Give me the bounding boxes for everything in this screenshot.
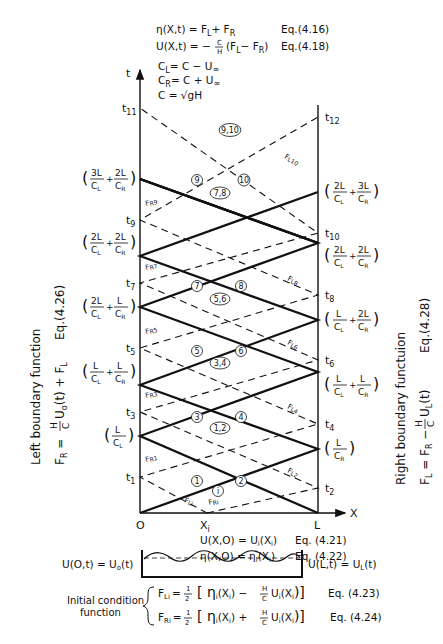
svg-text:2: 2 <box>185 595 189 603</box>
svg-text:+: + <box>106 367 114 377</box>
left-boundary-function: Left boundary function FR = H C Uo(t) + … <box>29 285 71 465</box>
svg-text:(: ( <box>82 361 88 380</box>
svg-text:L: L <box>117 361 122 371</box>
origin-label: O <box>136 519 145 532</box>
svg-text:2: 2 <box>185 619 189 627</box>
region-8: 8 <box>236 281 247 292</box>
svg-text:5: 5 <box>194 347 199 356</box>
svg-text:4: 4 <box>238 413 243 422</box>
svg-text:2L: 2L <box>91 232 102 242</box>
svg-text:UL(t): UL(t) <box>418 390 434 417</box>
svg-text:L: L <box>336 374 341 384</box>
region-5: 5 <box>192 346 203 357</box>
svg-text:CL: CL <box>91 245 101 256</box>
svg-text:C: C <box>61 423 71 429</box>
region-1: 1 <box>192 476 203 487</box>
svg-text:Ui(Xi)]: Ui(Xi)] <box>271 584 305 601</box>
svg-text:5,6: 5,6 <box>214 295 227 304</box>
svg-text:9: 9 <box>194 176 199 185</box>
svg-text:CL: CL <box>334 258 344 269</box>
t11-label: t11 <box>122 102 137 117</box>
svg-text:(: ( <box>324 309 330 328</box>
svg-text:L: L <box>117 296 122 306</box>
svg-text:CR: CR <box>115 245 125 256</box>
svg-text:(: ( <box>324 181 330 200</box>
u-equation-ref: Eq.(4.18) <box>281 40 329 52</box>
svg-text:FRi=: FRi= <box>158 611 182 625</box>
svg-text:CR: CR <box>358 258 368 269</box>
right-time-expressions: ( L CR ) ( L CL + L CR ) ( L CL + 2L CR … <box>324 181 379 462</box>
t9-label: t9 <box>126 214 135 229</box>
svg-text:CR: CR <box>115 309 125 320</box>
svg-text:2L: 2L <box>334 245 345 255</box>
t10-label: t10 <box>325 227 340 242</box>
svg-text:CR: CR <box>115 374 125 385</box>
svg-text:+: + <box>349 380 357 390</box>
svg-text:CR: CR <box>115 181 125 192</box>
left-bc-label: U(O,t) = Uo(t) <box>62 558 133 572</box>
fr9-label: FR9 <box>144 197 158 208</box>
fl-initial-ref: Eq. (4.23) <box>328 587 380 599</box>
svg-text:3L: 3L <box>358 181 369 191</box>
t7-label: t7 <box>126 277 135 292</box>
u-equation-rest: (FL− FR) <box>226 40 268 55</box>
cl-equation: CL= C − U∞ <box>158 60 219 75</box>
svg-text:[ ηi(Xi) +: [ ηi(Xi) + <box>197 608 247 625</box>
svg-text:C: C <box>262 619 267 627</box>
u-frac-num: C <box>217 39 222 47</box>
left-expr-2: ( L CL + L CR ) <box>82 361 136 385</box>
svg-text:CR: CR <box>358 322 368 333</box>
svg-text:2L: 2L <box>91 296 102 306</box>
region-10: 10 <box>238 174 250 186</box>
region-9-10: 9,10 <box>219 124 241 137</box>
t8-label: t8 <box>325 289 334 304</box>
x-axis-label: X <box>350 507 358 520</box>
svg-text:3,4: 3,4 <box>214 359 227 368</box>
u-frac-den: H <box>217 48 222 56</box>
svg-text:2L: 2L <box>115 232 126 242</box>
svg-text:(: ( <box>324 245 330 264</box>
region-labels: i 1 2 1,2 3 4 3,4 5 6 5,6 7 8 7,8 9 10 9… <box>192 124 251 497</box>
svg-text:+: + <box>349 187 357 197</box>
svg-text:9,10: 9,10 <box>221 126 239 135</box>
svg-text:+: + <box>349 315 357 325</box>
eta-equation-ref: Eq.(4.16) <box>281 23 329 35</box>
fl4-label: FL4 <box>286 403 300 415</box>
svg-text:6: 6 <box>238 347 243 356</box>
region-4: 4 <box>236 412 247 423</box>
svg-text:10: 10 <box>239 176 249 185</box>
left-boundary-title: Left boundary function <box>29 329 43 465</box>
svg-text:C: C <box>426 421 436 427</box>
right-expr-2: ( L CL + L CR ) <box>324 374 379 398</box>
t-axis-label: t <box>126 67 131 80</box>
region-2: 2 <box>236 476 247 487</box>
fl2-label: FL2 <box>286 467 300 479</box>
t4-label: t4 <box>325 418 334 433</box>
svg-text:CR: CR <box>334 451 344 462</box>
svg-text:L: L <box>336 438 341 448</box>
right-expr-4: ( 2L CL + 2L CR ) <box>324 245 379 269</box>
fr1-label: FR1 <box>144 453 158 464</box>
svg-text:CR: CR <box>358 387 368 398</box>
svg-text:2L: 2L <box>334 181 345 191</box>
svg-text:CL: CL <box>113 438 123 449</box>
fr-initial: FRi= 1 2 [ ηi(Xi) + H C Ui(Xi)] Eq. (4.2… <box>158 608 382 627</box>
initial-condition-function: Initial condition function FLi= 1 2 [ ηi… <box>67 584 382 627</box>
svg-text:CL: CL <box>91 309 101 320</box>
svg-text:H: H <box>262 609 267 617</box>
svg-text:i: i <box>217 487 219 496</box>
t1-label: t1 <box>126 471 135 486</box>
svg-text:CL: CL <box>91 181 101 192</box>
svg-text:C: C <box>262 595 267 603</box>
svg-text:(: ( <box>82 232 88 251</box>
xi-label: Xi <box>200 519 210 534</box>
right-end-label: L <box>314 519 321 532</box>
svg-text:2: 2 <box>238 477 243 486</box>
svg-text:3: 3 <box>194 413 199 422</box>
svg-text:[ ηi(Xi) −: [ ηi(Xi) − <box>197 584 247 601</box>
svg-text:): ) <box>130 296 136 315</box>
right-expr-5: ( 2L CL + 3L CR ) <box>324 181 379 205</box>
svg-text:Ui(Xi)]: Ui(Xi)] <box>271 608 305 625</box>
c-equation: C = √gH <box>158 89 202 101</box>
svg-text:CR: CR <box>358 194 368 205</box>
